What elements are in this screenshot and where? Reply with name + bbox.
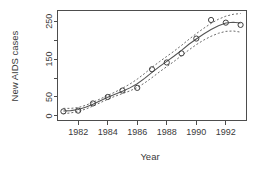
x-tick-label: 1982 [68,127,88,137]
y-tick-label: 150 [44,52,54,67]
x-tick-label: 1990 [186,127,206,137]
y-tick-label: 0 [44,113,54,118]
x-axis-title: Year [140,151,159,162]
data-points [61,17,243,114]
data-point-marker [208,17,213,22]
x-tick-label: 1988 [157,127,177,137]
aids-cases-chart: 050150250198219841986198819901992 Year N… [0,0,260,171]
chart-canvas: 050150250198219841986198819901992 Year N… [0,0,260,171]
x-tick-label: 1984 [98,127,118,137]
data-point-marker [238,22,243,27]
x-tick-label: 1986 [127,127,147,137]
y-tick-label: 50 [44,92,54,102]
y-tick-label: 250 [44,14,54,29]
x-tick-label: 1992 [216,127,236,137]
y-axis-title: New AIDS cases [9,30,20,101]
